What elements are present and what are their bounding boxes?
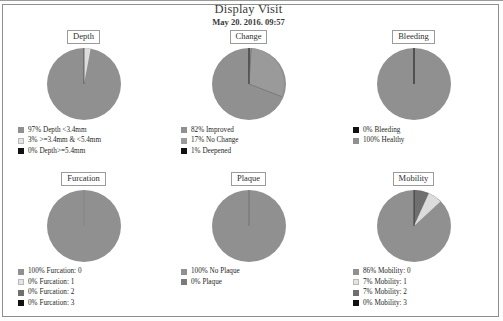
chart-title-depth: Depth bbox=[67, 30, 100, 44]
legend-item: 0% Plaque bbox=[181, 277, 331, 287]
panel-depth: Depth 97% Depth <3.4mm 3% >=3.4mm & <5.4… bbox=[1, 28, 166, 170]
pie-depth-svg bbox=[46, 47, 122, 121]
legend-item: 0% Mobility: 3 bbox=[353, 298, 496, 308]
legend-swatch-icon bbox=[181, 148, 187, 154]
legend-label: 100% No Plaque bbox=[191, 267, 240, 276]
legend-label: 17% No Change bbox=[191, 136, 239, 145]
legend-swatch-icon bbox=[181, 127, 187, 133]
legend-label: 1% Deepened bbox=[191, 147, 231, 156]
chart-title-mobility: Mobility bbox=[393, 172, 435, 186]
legend-swatch-icon bbox=[18, 300, 24, 306]
legend-furcation: 100% Furcation: 0 0% Furcation: 1 0% Fur… bbox=[1, 267, 166, 309]
legend-label: 0% Furcation: 1 bbox=[28, 278, 74, 287]
legend-swatch-icon bbox=[181, 279, 187, 285]
panel-bleeding: Bleeding 0% Bleeding 100% Healthy bbox=[331, 28, 496, 170]
page-title: Display Visit bbox=[0, 2, 497, 17]
pie-plaque-svg bbox=[211, 189, 287, 263]
pie-chart-mobility[interactable] bbox=[371, 188, 457, 264]
legend-label: 0% Furcation: 3 bbox=[28, 299, 74, 308]
legend-swatch-icon bbox=[353, 127, 359, 133]
legend-swatch-icon bbox=[353, 290, 359, 296]
legend-item: 0% Furcation: 2 bbox=[18, 288, 166, 298]
pie-chart-change[interactable] bbox=[206, 46, 292, 122]
legend-swatch-icon bbox=[18, 148, 24, 154]
legend-label: 100% Furcation: 0 bbox=[28, 267, 82, 276]
legend-mobility: 86% Mobility: 0 7% Mobility: 1 7% Mobili… bbox=[331, 267, 496, 309]
legend-bleeding: 0% Bleeding 100% Healthy bbox=[331, 125, 496, 146]
legend-label: 82% Improved bbox=[191, 126, 234, 135]
legend-label: 7% Mobility: 2 bbox=[363, 288, 407, 297]
panel-mobility: Mobility 86% Mobility: 0 7% Mobility: 1 bbox=[331, 170, 496, 312]
pie-furcation-svg bbox=[46, 189, 122, 263]
legend-item: 17% No Change bbox=[181, 136, 331, 146]
legend-item: 100% Furcation: 0 bbox=[18, 267, 166, 277]
panel-furcation: Furcation 100% Furcation: 0 0% Furcation… bbox=[1, 170, 166, 312]
chart-title-change: Change bbox=[230, 30, 268, 44]
legend-swatch-icon bbox=[18, 138, 24, 144]
pie-bleeding-svg bbox=[376, 47, 452, 121]
legend-plaque: 100% No Plaque 0% Plaque bbox=[166, 267, 331, 288]
legend-swatch-icon bbox=[18, 279, 24, 285]
legend-swatch-icon bbox=[18, 127, 24, 133]
panel-plaque: Plaque 100% No Plaque 0% Plaque bbox=[166, 170, 331, 312]
visit-timestamp: May 20. 2016. 09:57 bbox=[0, 17, 497, 28]
display-visit-window: Display Visit May 20. 2016. 09:57 Depth … bbox=[0, 0, 503, 321]
panel-change: Change 82% Improved 17% No Change bbox=[166, 28, 331, 170]
legend-item: 86% Mobility: 0 bbox=[353, 267, 496, 277]
legend-label: 0% Mobility: 3 bbox=[363, 299, 407, 308]
legend-depth: 97% Depth <3.4mm 3% >=3.4mm & <5.4mm 0% … bbox=[1, 125, 166, 157]
pie-chart-bleeding[interactable] bbox=[371, 46, 457, 122]
legend-swatch-icon bbox=[18, 269, 24, 275]
legend-item: 0% Furcation: 3 bbox=[18, 298, 166, 308]
legend-label: 0% Furcation: 2 bbox=[28, 288, 74, 297]
legend-swatch-icon bbox=[181, 269, 187, 275]
pie-mobility-svg bbox=[376, 189, 452, 263]
legend-item: 3% >=3.4mm & <5.4mm bbox=[18, 136, 166, 146]
report-header: Display Visit May 20. 2016. 09:57 bbox=[0, 2, 497, 28]
legend-item: 0% Depth>=5.4mm bbox=[18, 146, 166, 156]
legend-swatch-icon bbox=[353, 138, 359, 144]
legend-swatch-icon bbox=[353, 300, 359, 306]
pie-chart-depth[interactable] bbox=[41, 46, 127, 122]
legend-swatch-icon bbox=[353, 279, 359, 285]
legend-swatch-icon bbox=[181, 138, 187, 144]
legend-swatch-icon bbox=[18, 290, 24, 296]
legend-item: 7% Mobility: 2 bbox=[353, 288, 496, 298]
legend-item: 97% Depth <3.4mm bbox=[18, 125, 166, 135]
legend-item: 1% Deepened bbox=[181, 146, 331, 156]
legend-change: 82% Improved 17% No Change 1% Deepened bbox=[166, 125, 331, 157]
legend-label: 100% Healthy bbox=[363, 136, 404, 145]
pie-chart-furcation[interactable] bbox=[41, 188, 127, 264]
legend-item: 7% Mobility: 1 bbox=[353, 277, 496, 287]
chart-title-plaque: Plaque bbox=[231, 172, 266, 186]
chart-title-furcation: Furcation bbox=[61, 172, 106, 186]
legend-item: 0% Furcation: 1 bbox=[18, 277, 166, 287]
legend-label: 3% >=3.4mm & <5.4mm bbox=[28, 136, 101, 145]
legend-label: 0% Plaque bbox=[191, 278, 222, 287]
legend-label: 97% Depth <3.4mm bbox=[28, 126, 87, 135]
legend-item: 0% Bleeding bbox=[353, 125, 496, 135]
pie-chart-plaque[interactable] bbox=[206, 188, 292, 264]
legend-item: 82% Improved bbox=[181, 125, 331, 135]
legend-label: 7% Mobility: 1 bbox=[363, 278, 407, 287]
chart-title-bleeding: Bleeding bbox=[392, 30, 435, 44]
legend-label: 0% Depth>=5.4mm bbox=[28, 147, 85, 156]
legend-item: 100% No Plaque bbox=[181, 267, 331, 277]
window-top-border bbox=[0, 0, 503, 1]
legend-label: 0% Bleeding bbox=[363, 126, 400, 135]
legend-item: 100% Healthy bbox=[353, 136, 496, 146]
pie-change-svg bbox=[211, 47, 287, 121]
charts-grid: Depth 97% Depth <3.4mm 3% >=3.4mm & <5.4… bbox=[1, 28, 496, 311]
legend-swatch-icon bbox=[353, 269, 359, 275]
legend-label: 86% Mobility: 0 bbox=[363, 267, 411, 276]
